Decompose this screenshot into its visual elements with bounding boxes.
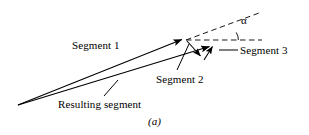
- figure-caption: (a): [0, 115, 309, 127]
- segment-2-leader-line: [177, 44, 189, 70]
- dashed-diagonal-extension-line: [186, 13, 259, 40]
- angle-alpha-label: α: [241, 15, 247, 26]
- resulting-segment-label: Resulting segment: [58, 99, 141, 110]
- segment-1-label: Segment 1: [72, 40, 120, 51]
- angle-arc-icon: [236, 32, 238, 40]
- segment-3-label: Segment 3: [240, 45, 288, 56]
- segment-3-vector: [204, 47, 213, 61]
- resulting-segment-leader-line: [104, 80, 118, 96]
- figure-container: Segment 1 Segment 2 Segment 3 Resulting …: [0, 0, 309, 135]
- segment-2-label: Segment 2: [156, 74, 204, 85]
- segment-2-vector: [187, 41, 201, 56]
